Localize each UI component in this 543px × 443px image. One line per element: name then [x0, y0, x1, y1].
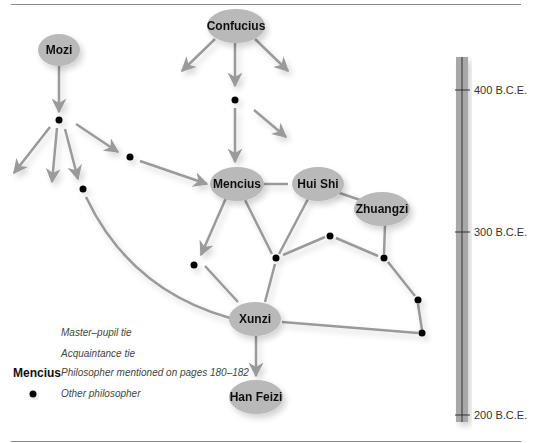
node-zhuangzi[interactable]: Zhuangzi [354, 192, 410, 226]
edge-zhuangzi-dot383 [384, 225, 385, 254]
node-zhuangzi-label: Zhuangzi [356, 202, 409, 216]
dot-330[interactable] [327, 233, 334, 240]
node-huishi-label: Hui Shi [297, 177, 338, 191]
edge-mozidot-left2 [52, 128, 57, 182]
dot-toward-mencius[interactable] [127, 154, 134, 161]
dot-422[interactable] [419, 330, 426, 337]
timeline-label-300: 300 B.C.E. [474, 226, 527, 238]
node-huishi[interactable]: Hui Shi [292, 167, 344, 201]
dot-mid[interactable] [273, 255, 280, 262]
edge-dot330-dot383 [336, 238, 378, 256]
edge-mozidot-left1 [14, 127, 50, 173]
edge-confucius-right [255, 39, 288, 71]
node-hanfeizi[interactable]: Han Feizi [229, 380, 283, 414]
legend-acquaintance-label: Acquaintance tie [60, 348, 135, 359]
edge-dot418-dot422 [418, 304, 422, 330]
edge-confucius-left [182, 39, 215, 71]
legend-other-label: Other philosopher [61, 388, 141, 399]
timeline: 400 B.C.E. 300 B.C.E. 200 B.C.E. [455, 57, 527, 422]
edge-dotleft-xunzi [205, 266, 238, 302]
edge-dotmid-dot330 [283, 237, 325, 255]
edge-dot383-dot418 [388, 262, 415, 296]
dot-383[interactable] [381, 255, 388, 262]
node-mencius-label: Mencius [213, 177, 261, 191]
legend: Master–pupil tie Acquaintance tie Menciu… [13, 327, 249, 399]
edge-mencius-dotmid [245, 200, 272, 254]
node-xunzi[interactable]: Xunzi [229, 302, 281, 336]
node-mozi[interactable]: Mozi [38, 34, 80, 66]
edge-dot-xunzi-curve [86, 197, 230, 318]
dot-418[interactable] [415, 297, 422, 304]
dot-left-lower[interactable] [80, 186, 87, 193]
legend-philosopher-label: Philosopher mentioned on pages 180–182 [61, 367, 249, 378]
timeline-label-200: 200 B.C.E. [474, 409, 527, 421]
dot-mozi-pupil[interactable] [56, 117, 63, 124]
timeline-label-400: 400 B.C.E. [474, 84, 527, 96]
edge-mencius-dotleft [201, 198, 226, 255]
edge-mozidot-left3 [65, 129, 78, 179]
node-confucius[interactable]: Confucius [207, 9, 266, 43]
edge-mozidot-right [76, 124, 118, 152]
legend-master-pupil-label: Master–pupil tie [61, 327, 132, 338]
node-xunzi-label: Xunzi [239, 312, 271, 326]
node-confucius-label: Confucius [207, 19, 266, 33]
dot-confucius-pupil[interactable] [232, 97, 239, 104]
legend-philosopher-example: Mencius [13, 366, 61, 380]
dot-mencius-pupil[interactable] [191, 262, 198, 269]
edge-dot-mencius [140, 161, 207, 184]
node-mencius[interactable]: Mencius [210, 167, 264, 201]
legend-dot-icon [30, 391, 37, 398]
edge-confdot-right [254, 110, 286, 137]
node-hanfeizi-label: Han Feizi [230, 390, 283, 404]
edge-dotmid-xunzi [265, 264, 275, 302]
node-mozi-label: Mozi [46, 43, 73, 57]
edge-xunzi-dot422 [282, 322, 418, 333]
philosopher-network-diagram: 400 B.C.E. 300 B.C.E. 200 B.C.E. [0, 0, 543, 443]
